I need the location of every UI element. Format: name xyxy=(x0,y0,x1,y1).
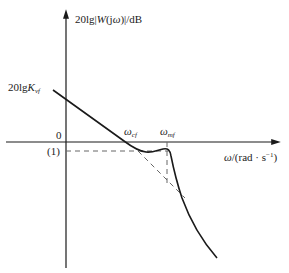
crossover-frequency-label: ωcf xyxy=(124,126,137,139)
intercept-label: 20lgKvf xyxy=(8,82,40,95)
bode-plot-canvas xyxy=(0,0,289,273)
level-label: (1) xyxy=(47,146,60,157)
origin-label: 0 xyxy=(56,130,62,141)
resonant-frequency-label: ωmf xyxy=(160,126,175,139)
x-axis-label: ω/(rad · s−1) xyxy=(224,152,277,163)
asymptote-dashed-line xyxy=(138,151,185,198)
magnitude-curve xyxy=(53,90,217,258)
y-axis-label: 20lg|W(jω)|/dB xyxy=(75,14,142,25)
